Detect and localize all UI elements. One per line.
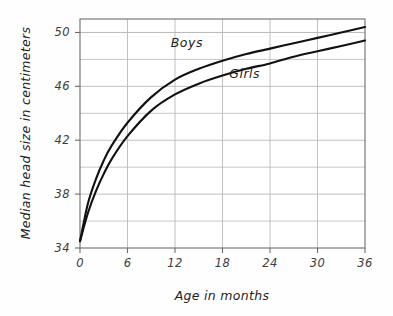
x-axis-tick-label: 30 [310, 256, 325, 270]
x-axis-tick-label: 36 [357, 256, 372, 270]
series-label-boys: Boys [171, 35, 203, 50]
x-axis-tick-label: 24 [262, 256, 277, 270]
y-axis-tick-label: 42 [55, 133, 70, 147]
y-axis-title: Median head size in centimeters [18, 27, 33, 240]
chart-canvas: 3438424650 061218243036 BoysGirls Age in… [0, 0, 393, 316]
series-label-girls: Girls [229, 66, 260, 81]
x-axis-tick-label: 0 [76, 256, 84, 270]
y-axis-tick-label: 46 [55, 79, 70, 93]
x-axis-tick-label: 12 [167, 256, 182, 270]
x-axis-title: Age in months [174, 288, 270, 303]
y-axis-tick-label: 38 [55, 187, 70, 201]
x-axis-tick-label: 6 [124, 256, 132, 270]
y-axis-tick-label: 50 [55, 25, 70, 39]
y-axis-tick-label: 34 [55, 241, 70, 255]
x-axis-tick-label: 18 [215, 256, 230, 270]
growth-chart: 3438424650 061218243036 BoysGirls Age in… [0, 0, 393, 316]
